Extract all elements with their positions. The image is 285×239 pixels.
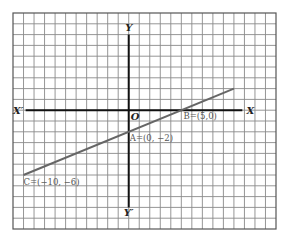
coordinate-diagram: X X′ Y Y′ O A=(0, −2) B=(5,0) C=(−10, −6… [0, 0, 285, 239]
point-b-label: B=(5,0) [183, 111, 217, 121]
graph-canvas: X X′ Y Y′ O A=(0, −2) B=(5,0) C=(−10, −6… [0, 0, 285, 239]
origin-label: O [131, 111, 140, 122]
x-negative-axis-label: X′ [12, 105, 24, 116]
grid-lines [13, 13, 276, 229]
point-a-label: A=(0, −2) [129, 133, 173, 143]
x-axis-label: X [246, 105, 256, 116]
point-c-label: C=(−10, −6) [23, 177, 79, 187]
y-axis-label: Y [125, 22, 133, 33]
y-negative-axis-label: Y′ [124, 207, 134, 218]
